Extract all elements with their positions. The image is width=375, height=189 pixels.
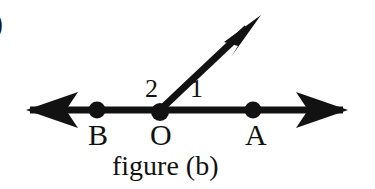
point-dot-b [89, 102, 106, 119]
point-dot-a [245, 102, 262, 119]
horizontal-line-group [26, 92, 348, 128]
point-label-o: O [150, 120, 172, 150]
slanted-ray-group [160, 15, 261, 110]
angle-label-1: 1 [190, 76, 203, 102]
point-label-a: A [245, 120, 267, 150]
figure-caption: figure (b) [112, 152, 219, 180]
angle-label-2: 2 [145, 76, 158, 102]
geometry-figure: ) B O A 2 1 figure (b) [0, 0, 375, 189]
point-label-b: B [88, 120, 108, 150]
arrowhead-ray-icon [224, 15, 261, 57]
